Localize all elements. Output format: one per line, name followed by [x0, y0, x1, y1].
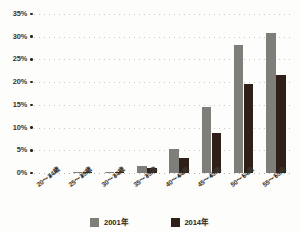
y-axis-tick-marker — [30, 126, 33, 129]
x-axis-tick: 30～34歳 — [99, 175, 131, 217]
y-axis-tick: 35% — [13, 10, 33, 18]
bar — [202, 107, 212, 173]
x-axis-tick: 25～29歳 — [66, 175, 98, 217]
y-axis-tick: 5% — [17, 146, 33, 154]
x-axis-tick: 40～44歳 — [163, 175, 195, 217]
bar — [276, 75, 286, 173]
y-axis-tick-marker — [30, 81, 33, 84]
y-axis-tick: 20% — [13, 78, 33, 86]
x-axis-tick: 35～39歳 — [131, 175, 163, 217]
y-axis-tick: 15% — [13, 101, 33, 109]
bar-chart: 35%30%25%20%15%10%5%0% 20～24歳25～29歳30～34… — [0, 0, 299, 233]
bar-group — [99, 14, 131, 173]
bar-group — [195, 14, 227, 173]
x-axis: 20～24歳25～29歳30～34歳35～39歳40～44歳45～49歳50～5… — [34, 175, 292, 217]
bar-group — [228, 14, 260, 173]
bar-group — [163, 14, 195, 173]
legend-item[interactable]: 2001年 — [90, 218, 128, 227]
bar — [244, 84, 254, 173]
y-axis-tick-marker — [30, 58, 33, 61]
y-axis-tick-marker — [30, 172, 33, 175]
legend-item[interactable]: 2014年 — [171, 218, 209, 227]
legend-label: 2014年 — [185, 218, 209, 227]
y-axis-tick-label: 15% — [13, 101, 28, 109]
bar-group — [34, 14, 66, 173]
x-axis-tick: 55～59歳 — [260, 175, 292, 217]
y-axis-tick-label: 20% — [13, 78, 28, 86]
bar-groups — [34, 14, 292, 173]
y-axis-tick: 30% — [13, 33, 33, 41]
legend-swatch — [90, 218, 99, 227]
bar — [266, 33, 276, 173]
y-axis-tick-label: 35% — [13, 10, 28, 18]
chart-legend: 2001年2014年 — [0, 215, 299, 229]
bar-group — [66, 14, 98, 173]
y-axis-tick-marker — [30, 104, 33, 107]
y-axis-tick-label: 30% — [13, 33, 28, 41]
y-axis-tick-label: 25% — [13, 55, 28, 63]
bar-group — [260, 14, 292, 173]
legend-label: 2001年 — [104, 218, 128, 227]
y-axis-tick: 0% — [17, 169, 33, 177]
plot-area — [34, 14, 292, 173]
y-axis-tick-label: 0% — [17, 169, 27, 177]
y-axis-tick: 10% — [13, 124, 33, 132]
y-axis-tick-label: 10% — [13, 124, 28, 132]
y-axis-tick-label: 5% — [17, 146, 27, 154]
y-axis-tick: 25% — [13, 55, 33, 63]
y-axis-tick-marker — [30, 35, 33, 38]
x-axis-tick: 50～54歳 — [228, 175, 260, 217]
legend-swatch — [171, 218, 180, 227]
x-axis-tick: 20～24歳 — [34, 175, 66, 217]
y-axis-tick-marker — [30, 13, 33, 16]
x-axis-tick: 45～49歳 — [195, 175, 227, 217]
bar — [234, 45, 244, 173]
y-axis-tick-marker — [30, 149, 33, 152]
bar-group — [131, 14, 163, 173]
